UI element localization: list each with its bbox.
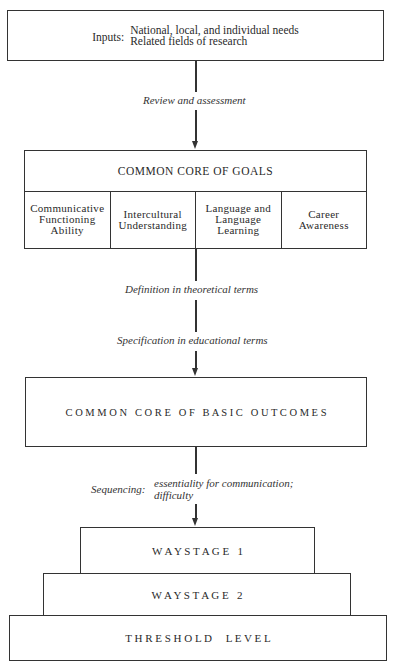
waystage-1-box: W A Y S T A G E 1 bbox=[80, 527, 315, 575]
waystage-2-label: W A Y S T A G E 2 bbox=[44, 574, 350, 616]
goal-career: Career Awareness bbox=[282, 191, 367, 248]
outcomes-box: C O M M O N C O R E O F B A S I C O U T … bbox=[25, 377, 367, 447]
goal-line: Understanding bbox=[118, 220, 187, 231]
sequencing-line-2: difficulty bbox=[154, 489, 193, 501]
arrowhead-icon bbox=[192, 141, 198, 149]
goals-box: COMMON CORE OF GOALS Communicative Funct… bbox=[24, 150, 367, 249]
inputs-line-1: National, local, and individual needs bbox=[130, 25, 299, 36]
threshold-level-label: T H R E S H O L D L E V E L bbox=[10, 616, 386, 660]
goal-communicative: Communicative Functioning Ability bbox=[25, 191, 111, 248]
specification-label: Specification in educational terms bbox=[117, 334, 268, 346]
inputs-box: Inputs: National, local, and individual … bbox=[7, 10, 384, 61]
goal-intercultural: Intercultural Understanding bbox=[111, 191, 197, 248]
connector-line bbox=[195, 110, 197, 143]
goal-line: Intercultural bbox=[118, 209, 187, 220]
goal-line: Ability bbox=[30, 225, 104, 236]
definition-label: Definition in theoretical terms bbox=[125, 283, 258, 295]
goals-title: COMMON CORE OF GOALS bbox=[25, 151, 366, 192]
waystage-2-box: W A Y S T A G E 2 bbox=[43, 573, 351, 617]
connector-line bbox=[195, 249, 197, 281]
goal-line: Career bbox=[299, 209, 349, 220]
arrowhead-icon bbox=[192, 518, 198, 526]
connector-line bbox=[195, 447, 197, 474]
connector-line bbox=[195, 300, 197, 332]
goal-line: Awareness bbox=[299, 220, 349, 231]
outcomes-title: C O M M O N C O R E O F B A S I C O U T … bbox=[26, 378, 366, 446]
waystage-1-label: W A Y S T A G E 1 bbox=[81, 528, 314, 574]
arrowhead-icon bbox=[192, 368, 198, 376]
review-label: Review and assessment bbox=[143, 94, 246, 106]
threshold-level-box: T H R E S H O L D L E V E L bbox=[9, 615, 387, 661]
connector-line bbox=[195, 61, 197, 92]
inputs-key: Inputs: bbox=[92, 31, 124, 43]
sequencing-key: Sequencing: bbox=[91, 483, 145, 495]
inputs-line-2: Related fields of research bbox=[130, 36, 299, 47]
goal-line: Learning bbox=[205, 225, 271, 236]
goal-language: Language and Language Learning bbox=[196, 191, 282, 248]
sequencing-line-1: essentiality for communication; bbox=[154, 477, 293, 489]
